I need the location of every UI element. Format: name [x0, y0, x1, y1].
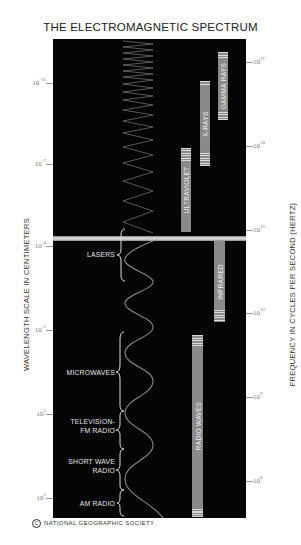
wavelength-tick: 102 [37, 408, 54, 418]
brace-graphics [53, 39, 246, 518]
frequency-tick: 1018 [246, 140, 265, 150]
app-label-microwaves: MICROWAVES [67, 368, 115, 377]
wavelength-tick: 105 [37, 492, 54, 502]
frequency-tick: 1012 [246, 307, 265, 317]
frequency-tick: 1021 [246, 56, 265, 66]
wavelength-tick: 10-1 [35, 324, 53, 334]
spectrum-panel: GAMMA RAYS X-RAYS ULTRAVIOLET INFRARED R… [53, 39, 246, 518]
frequency-tick: 106 [246, 475, 263, 485]
wavelength-tick: 10-4 [35, 240, 53, 250]
app-label-lasers: LASERS [87, 250, 115, 259]
frequency-axis-label: FREQUENCY IN CYCLES PER SECOND (HERTZ) [288, 165, 297, 425]
wavelength-tick: 10-7 [35, 158, 53, 168]
copyright-icon: C [32, 519, 41, 528]
diagram-title: THE ELECTROMAGNETIC SPECTRUM [0, 21, 301, 33]
frequency-tick: 1015 [246, 224, 265, 234]
app-label-am-radio: AM RADIO [80, 499, 115, 508]
wavelength-tick: 10-10 [32, 77, 53, 87]
copyright-footer: CNATIONAL GEOGRAPHIC SOCIETY [32, 519, 154, 528]
wavelength-axis-label: WAVELENGTH SCALE IN CENTIMETERS [22, 195, 31, 395]
frequency-tick: 109 [246, 391, 263, 401]
app-label-shortwave: SHORT WAVERADIO [68, 457, 115, 475]
app-label-tv-fm: TELEVISION-FM RADIO [70, 417, 115, 435]
